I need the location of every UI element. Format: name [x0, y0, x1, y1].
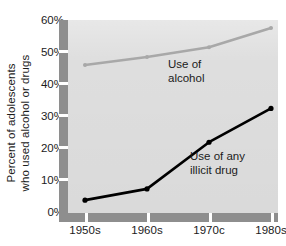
- data-point: [269, 26, 273, 30]
- data-point: [206, 140, 211, 145]
- data-point: [268, 106, 273, 111]
- series-label-illicit-line-2: illicit drug: [190, 164, 245, 178]
- data-point: [144, 186, 149, 191]
- series-label-alcohol-line-1: Use of: [168, 58, 201, 70]
- data-point: [82, 198, 87, 203]
- series-label-alcohol-line-2: alcohol: [168, 72, 204, 86]
- series-label-illicit-drug: Use of any illicit drug: [190, 150, 245, 177]
- series-label-illicit-line-1: Use of any: [190, 150, 245, 162]
- series-layer: [0, 0, 286, 246]
- data-point: [207, 45, 211, 49]
- data-point: [145, 55, 149, 59]
- data-point: [83, 63, 87, 67]
- chart-figure: Percent of adolescents who used alcohol …: [0, 0, 286, 246]
- series-label-alcohol: Use of alcohol: [168, 58, 204, 85]
